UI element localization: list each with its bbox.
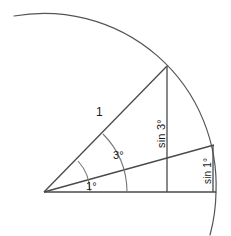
sin-1-degree-label: sin 1°: [203, 158, 213, 184]
angle-arc-3-degree: [103, 134, 127, 192]
sin-3-degree-label: sin 3°: [156, 119, 167, 148]
angle-1-degree-label: 1°: [86, 181, 97, 192]
radius-label: 1: [96, 106, 103, 118]
circle-arc-lower: [210, 192, 216, 235]
angle-3-degree-label: 3°: [113, 150, 124, 161]
ray-1-degree: [44, 145, 214, 192]
circle-arc: [14, 13, 216, 192]
geometry-svg: [0, 0, 231, 236]
geometry-figure: 1 3° 1° sin 3° sin 1°: [0, 0, 231, 236]
ray-3-degree: [44, 66, 167, 192]
